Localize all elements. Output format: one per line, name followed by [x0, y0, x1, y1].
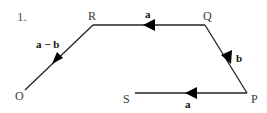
point-label-o: O [15, 89, 24, 103]
question-number: 1. [17, 9, 27, 24]
vector-label-q-r: a [145, 8, 151, 20]
point-label-s: S [123, 92, 130, 106]
vector-label-r-o: a − b [36, 38, 59, 50]
vector-diagram: 1. R Q P S O a − b a b a [0, 0, 267, 113]
arrow-head-r-o-icon [52, 52, 63, 64]
vector-label-p-s: a [185, 98, 191, 110]
point-label-q: Q [203, 9, 212, 23]
point-label-p: P [251, 92, 258, 106]
point-label-r: R [88, 9, 96, 23]
arrow-head-q-p-icon [221, 50, 232, 64]
vector-label-q-p: b [236, 52, 242, 64]
arrow-head-q-r-icon [143, 19, 155, 31]
